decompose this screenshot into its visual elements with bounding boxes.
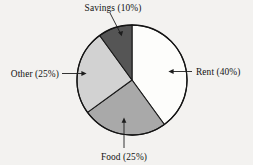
pie-chart-canvas: Savings (10%) Rent (40%) Other (25%) Foo… — [0, 0, 253, 165]
pie-label-savings: Savings (10%) — [85, 3, 142, 14]
pie-slices — [77, 25, 187, 135]
pie-label-rent: Rent (40%) — [196, 67, 240, 78]
pie-label-other: Other (25%) — [11, 69, 59, 80]
pie-chart-figure: Savings (10%) Rent (40%) Other (25%) Foo… — [0, 0, 253, 165]
pie-label-food: Food (25%) — [101, 152, 147, 163]
